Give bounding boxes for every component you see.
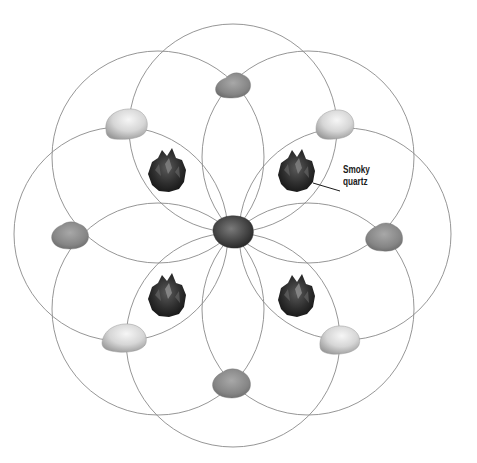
label-line-1: Smoky [343, 164, 370, 176]
circle-right [239, 128, 451, 340]
circle-left [14, 127, 228, 341]
tumbled-stone-top-right [316, 110, 354, 139]
rough-stone-bottom [213, 369, 251, 398]
crystal-grid-diagram [0, 0, 477, 463]
tumbled-stone-bottom-right [320, 326, 360, 354]
rough-stone-right [366, 223, 403, 251]
smoky-quartz-label: Smoky quartz [343, 164, 370, 188]
rough-stone-left [52, 222, 89, 249]
rough-stone-top [216, 73, 251, 98]
crystal-bottom-left [148, 273, 186, 317]
circle-top [129, 24, 337, 232]
crystal-bottom-right [278, 274, 315, 317]
crystal-top-left [148, 148, 186, 192]
tumbled-stone-top-left [106, 109, 148, 139]
crystal-top-right [278, 149, 315, 192]
label-line-2: quartz [343, 176, 370, 188]
tumbled-stone-bottom-left [102, 324, 146, 352]
